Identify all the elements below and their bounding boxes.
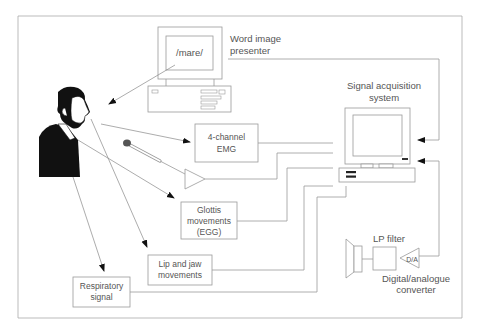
signal-acquisition-computer [339,108,415,182]
da-converter-label: converter [396,284,436,295]
svg-text:signal: signal [90,292,112,302]
word-image-presenter-label: presenter [230,45,270,56]
person-to-lip-jaw-arrow [91,119,147,247]
lp-filter-box [373,247,396,270]
da-feedback-wire [418,161,439,256]
lp-filter-label: LP filter [373,233,405,244]
word-image-presenter-label: Word image [230,33,281,44]
signal-acquisition-label: system [369,92,399,103]
microphone-cable [160,161,185,174]
speaker-person-icon [39,87,90,177]
svg-text:movements: movements [158,270,202,280]
word-image-presenter-computer: /mare/ [148,27,231,112]
svg-text:(EGG): (EGG) [197,227,222,237]
svg-text:Respiratory: Respiratory [80,281,124,291]
person-to-respiratory-arrow [73,177,104,271]
svg-text:movements: movements [187,216,231,226]
svg-text:Lip and jaw: Lip and jaw [158,259,202,269]
da-converter: D/A [400,248,419,268]
person-to-emg-arrow [101,124,190,142]
lip-jaw-box: Lip and jaw movements [148,255,212,285]
glottis-box: Glottis movements (EGG) [181,202,237,239]
person-to-glottis-arrow [78,140,174,198]
glottis-wire [237,168,333,221]
svg-text:Glottis: Glottis [197,205,221,215]
speaker-icon [346,239,362,278]
emg-box: 4-channel EMG [195,124,258,162]
amplifier-triangle-icon [185,169,205,189]
svg-text:EMG: EMG [217,144,236,154]
respiratory-box: Respiratory signal [73,277,130,307]
da-converter-label: Digital/analogue [382,273,450,284]
svg-text:4-channel: 4-channel [208,132,245,142]
svg-text:D/A: D/A [406,256,418,263]
microphone-icon [123,140,160,162]
signal-acquisition-label: Signal acquisition [347,80,421,91]
presenter-screen-text: /mare/ [176,47,203,58]
